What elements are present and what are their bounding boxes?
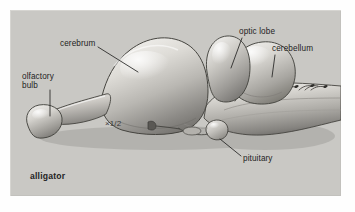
label-optic-lobe: optic lobe — [239, 27, 275, 36]
label-pituitary: pituitary — [243, 154, 273, 163]
optic-lobe-shape — [206, 36, 250, 102]
pituitary-shape — [206, 120, 228, 140]
scale-indicator: ×1/2 — [105, 119, 121, 128]
figure-page: cerebrum olfactory bulb optic lobe cereb… — [0, 0, 355, 212]
species-caption: alligator — [30, 172, 65, 181]
label-cerebellum: cerebellum — [272, 44, 313, 53]
label-olfactory-bulb: olfactory bulb — [22, 72, 54, 91]
label-cerebrum: cerebrum — [60, 39, 95, 48]
brain-illustration — [10, 10, 341, 196]
figure-panel: cerebrum olfactory bulb optic lobe cereb… — [10, 10, 341, 196]
